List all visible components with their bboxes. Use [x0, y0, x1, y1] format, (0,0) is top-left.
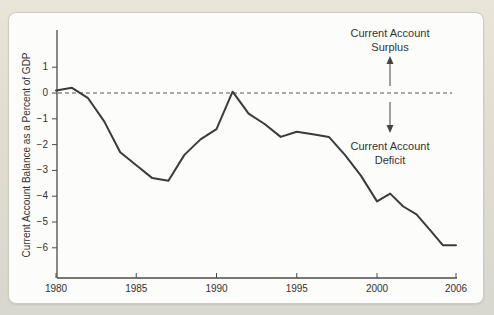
x-tick-label: 1995 [277, 283, 317, 294]
y-tick-label: 1 [24, 61, 48, 72]
y-tick-label: −5 [24, 216, 48, 227]
deficit-annotation-line1: Current Account [325, 139, 455, 153]
deficit-annotation: Current Account Deficit [325, 139, 455, 167]
x-tick-label: 2000 [357, 283, 397, 294]
y-tick-label: −3 [24, 164, 48, 175]
y-tick-marks [52, 67, 57, 248]
y-tick-label: −2 [24, 139, 48, 150]
x-tick-label: 1980 [36, 283, 76, 294]
surplus-up-arrow-icon [387, 56, 394, 86]
x-tick-label: 1990 [197, 283, 237, 294]
x-tick-marks [56, 273, 456, 278]
surplus-annotation: Current Account Surplus [325, 26, 455, 54]
y-tick-label: −6 [24, 242, 48, 253]
x-tick-label: 2006 [436, 283, 476, 294]
surplus-annotation-line2: Surplus [325, 40, 455, 54]
y-tick-label: −1 [24, 113, 48, 124]
figure-page: Balance as a Percent of GDP Current Acco… [0, 0, 494, 315]
surplus-annotation-line1: Current Account [325, 26, 455, 40]
y-axis-title: Current Account Balance as a Percent of … [21, 50, 35, 260]
y-tick-label: −4 [24, 190, 48, 201]
deficit-annotation-line2: Deficit [325, 153, 455, 167]
deficit-down-arrow-icon [387, 102, 394, 133]
y-tick-label: 0 [24, 87, 48, 98]
x-tick-label: 1985 [116, 283, 156, 294]
